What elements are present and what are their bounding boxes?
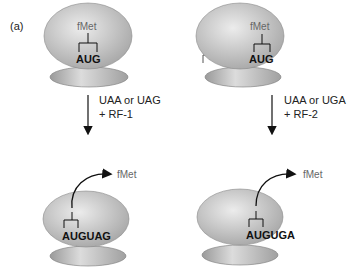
small-subunit (50, 246, 126, 266)
released-fmet-label: fMet (303, 169, 323, 180)
panel-a: (a) fMet AUG UAA or UAG + RF-1 fMet AUGU… (10, 3, 161, 266)
codon-label: AUG (249, 53, 273, 65)
fmet-label: fMet (250, 21, 270, 32)
small-subunit (205, 67, 281, 87)
condition-line1: UAA or UAG (99, 94, 161, 106)
fmet-label: fMet (77, 21, 97, 32)
condition-line1: UAA or UGA (284, 94, 346, 106)
small-subunit (50, 67, 128, 87)
codon-label: AUGUAG (62, 230, 111, 242)
condition-line2: + RF-1 (99, 108, 133, 120)
translation-termination-diagram: (a) fMet AUG UAA or UAG + RF-1 fMet AUGU… (0, 0, 348, 276)
codon-label: AUG (76, 53, 100, 65)
codon-label: AUGUGA (246, 229, 295, 241)
small-subunit (202, 245, 278, 265)
panel-b: (b) fMet AUG UAA or UGA + RF-2 fMet AUGU… (196, 3, 346, 265)
panel-a-label: (a) (10, 20, 23, 32)
condition-line2: + RF-2 (284, 108, 318, 120)
released-fmet-label: fMet (117, 169, 137, 180)
